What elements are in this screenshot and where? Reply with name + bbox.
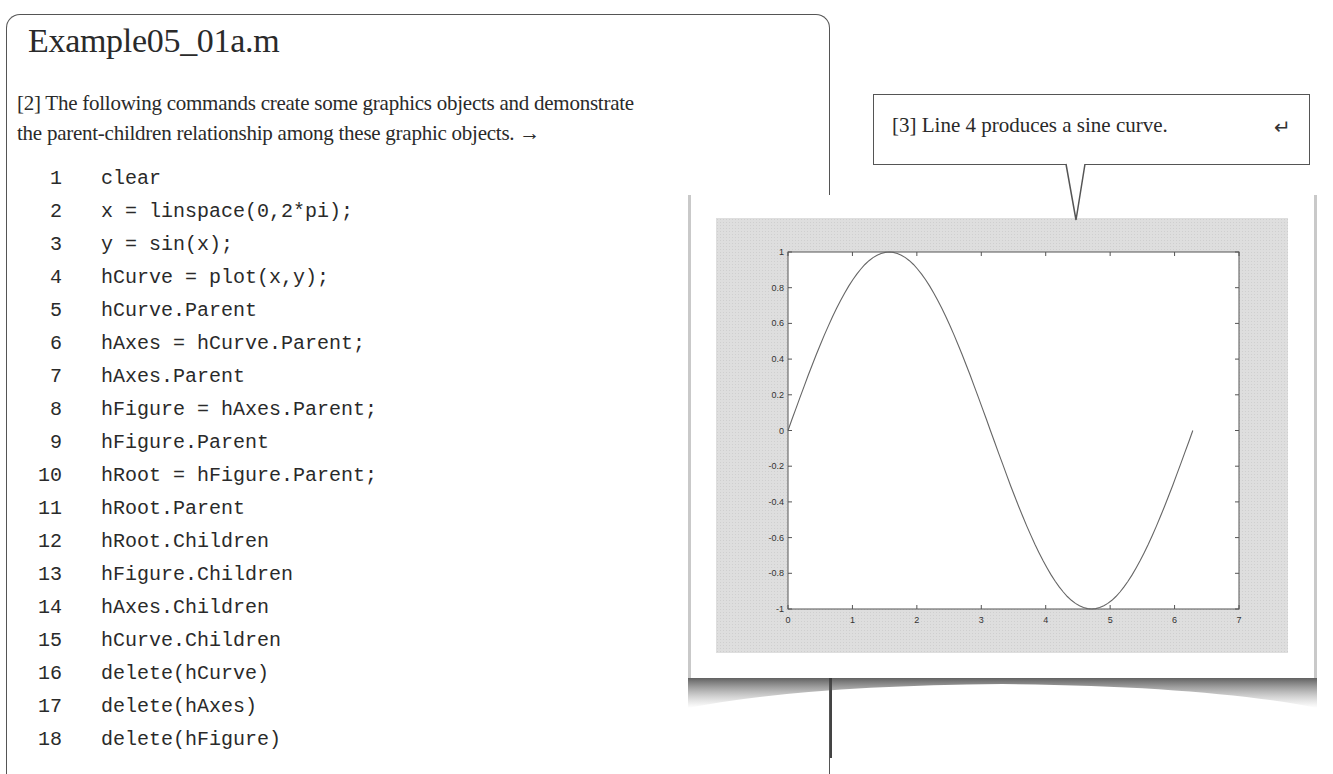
line-number: 6 — [18, 327, 62, 360]
y-tick-label: -0.4 — [768, 497, 784, 507]
line-number: 5 — [18, 294, 62, 327]
y-tick-label: -0.8 — [768, 568, 784, 578]
code-text: hAxes = hCurve.Parent; — [101, 327, 365, 360]
code-line: 9hFigure.Parent — [0, 426, 660, 459]
line-number: 14 — [18, 591, 62, 624]
y-tick-label: 1 — [779, 247, 784, 257]
code-line: 13hFigure.Children — [0, 558, 660, 591]
code-line: 15hCurve.Children — [0, 624, 660, 657]
line-number: 11 — [18, 492, 62, 525]
y-tick-label: 0.8 — [771, 283, 784, 293]
code-text: delete(hAxes) — [101, 690, 257, 723]
listing-description: [2] The following commands create some g… — [17, 88, 829, 148]
code-line: 16delete(hCurve) — [0, 657, 660, 690]
line-number: 1 — [18, 162, 62, 195]
sine-plot: 0123456710.80.60.40.20-0.2-0.4-0.6-0.8-1 — [716, 218, 1288, 653]
code-line: 1clear — [0, 162, 660, 195]
axes-box — [788, 252, 1239, 609]
y-tick-label: -0.2 — [768, 461, 784, 471]
code-text: hCurve.Parent — [101, 294, 257, 327]
line-number: 18 — [18, 723, 62, 756]
figure-window: 0123456710.80.60.40.20-0.2-0.4-0.6-0.8-1 — [688, 195, 1317, 678]
figure-shadow — [688, 672, 1317, 712]
line-number: 12 — [18, 525, 62, 558]
code-text: hAxes.Children — [101, 591, 269, 624]
code-line: 4hCurve = plot(x,y); — [0, 261, 660, 294]
line-number: 8 — [18, 393, 62, 426]
y-tick-label: -0.6 — [768, 533, 784, 543]
description-line: the parent-children relationship among t… — [17, 118, 829, 148]
x-tick-label: 1 — [850, 615, 855, 625]
code-text: hFigure.Parent — [101, 426, 269, 459]
callout-text: [3] Line 4 produces a sine curve. — [892, 113, 1168, 138]
x-tick-label: 4 — [1043, 615, 1048, 625]
code-text: hRoot.Parent — [101, 492, 245, 525]
code-text: hFigure = hAxes.Parent; — [101, 393, 377, 426]
line-number: 10 — [18, 459, 62, 492]
x-tick-label: 6 — [1172, 615, 1177, 625]
x-tick-label: 0 — [785, 615, 790, 625]
y-tick-label: 0.6 — [771, 318, 784, 328]
code-text: hCurve = plot(x,y); — [101, 261, 329, 294]
code-line: 6hAxes = hCurve.Parent; — [0, 327, 660, 360]
line-number: 17 — [18, 690, 62, 723]
code-line: 5hCurve.Parent — [0, 294, 660, 327]
line-number: 7 — [18, 360, 62, 393]
code-text: hFigure.Children — [101, 558, 293, 591]
code-text: hCurve.Children — [101, 624, 281, 657]
code-text: y = sin(x); — [101, 228, 233, 261]
code-line: 11hRoot.Parent — [0, 492, 660, 525]
code-text: hRoot.Children — [101, 525, 269, 558]
code-text: hAxes.Parent — [101, 360, 245, 393]
code-line: 7hAxes.Parent — [0, 360, 660, 393]
x-tick-label: 5 — [1108, 615, 1113, 625]
line-number: 15 — [18, 624, 62, 657]
y-tick-label: 0.4 — [771, 354, 784, 364]
code-text: hRoot = hFigure.Parent; — [101, 459, 377, 492]
code-line: 17delete(hAxes) — [0, 690, 660, 723]
code-line: 2x = linspace(0,2*pi); — [0, 195, 660, 228]
code-line: 10hRoot = hFigure.Parent; — [0, 459, 660, 492]
description-line: [2] The following commands create some g… — [17, 88, 829, 118]
code-line: 3y = sin(x); — [0, 228, 660, 261]
callout-box: [3] Line 4 produces a sine curve. ↵ — [873, 94, 1310, 165]
code-text: clear — [101, 162, 161, 195]
x-tick-label: 7 — [1236, 615, 1241, 625]
code-text: x = linspace(0,2*pi); — [101, 195, 353, 228]
y-tick-label: 0.2 — [771, 390, 784, 400]
figure-canvas: 0123456710.80.60.40.20-0.2-0.4-0.6-0.8-1 — [716, 218, 1288, 653]
code-line: 14hAxes.Children — [0, 591, 660, 624]
return-arrow-icon: ↵ — [1274, 115, 1291, 139]
y-tick-label: 0 — [779, 426, 784, 436]
code-line: 18delete(hFigure) — [0, 723, 660, 756]
code-line: 8hFigure = hAxes.Parent; — [0, 393, 660, 426]
line-number: 2 — [18, 195, 62, 228]
x-tick-label: 2 — [914, 615, 919, 625]
line-number: 4 — [18, 261, 62, 294]
line-number: 16 — [18, 657, 62, 690]
listing-title: Example05_01a.m — [28, 22, 279, 60]
code-text: delete(hCurve) — [101, 657, 269, 690]
line-number: 3 — [18, 228, 62, 261]
line-number: 13 — [18, 558, 62, 591]
code-text: delete(hFigure) — [101, 723, 281, 756]
x-tick-label: 3 — [979, 615, 984, 625]
y-tick-label: -1 — [776, 604, 784, 614]
code-line: 12hRoot.Children — [0, 525, 660, 558]
line-number: 9 — [18, 426, 62, 459]
